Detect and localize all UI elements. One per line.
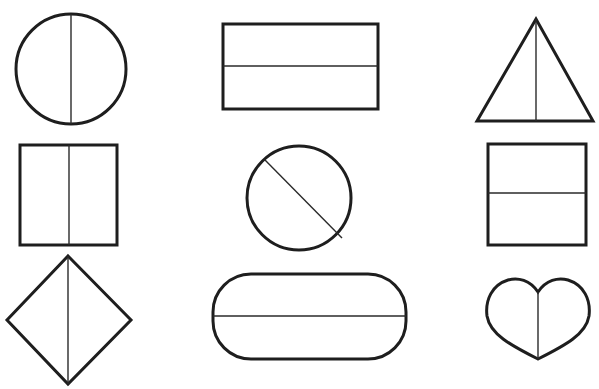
heart-vertical-split [487,279,590,359]
circle-vertical-split [16,14,126,124]
diamond-vertical-split [7,256,131,384]
rectangle-horizontal-split [223,24,378,109]
shapes-worksheet: Shapes divided into two equal parts [0,0,599,389]
circle-diagonal-split [247,146,351,250]
square-horizontal-split [488,144,586,245]
triangle-vertical-split [477,19,593,121]
rounded-rectangle-horizontal-split [213,274,406,359]
square-vertical-split [20,145,117,245]
